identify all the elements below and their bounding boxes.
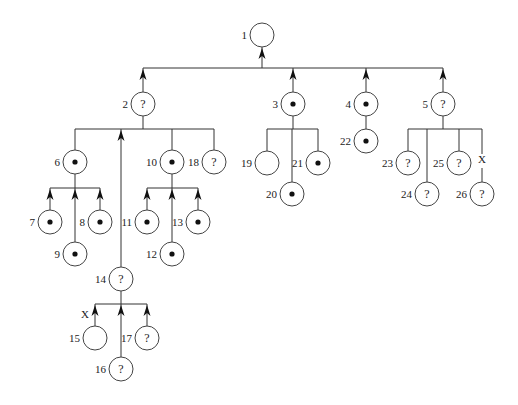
dot-icon [72, 159, 77, 164]
node-label: 8 [80, 216, 86, 228]
node-13: 13 [172, 210, 210, 234]
node-24: ?24 [401, 182, 439, 206]
dot-icon [363, 101, 368, 106]
dot-icon [195, 219, 200, 224]
question-mark-icon: ? [144, 331, 149, 345]
question-mark-icon: ? [118, 272, 123, 286]
node-circle [83, 326, 107, 350]
node-16: ?16 [95, 357, 133, 381]
node-label: 21 [292, 157, 303, 169]
dot-icon [315, 160, 320, 165]
node-label: 5 [423, 98, 429, 110]
node-circle [250, 23, 274, 47]
node-label: 7 [30, 216, 36, 228]
node-18: ?18 [188, 150, 226, 174]
node-21: 21 [292, 151, 330, 175]
node-11: 11 [121, 210, 159, 234]
dot-icon [169, 159, 174, 164]
node-7: 7 [30, 210, 63, 234]
node-label: 20 [266, 188, 278, 200]
arrows-layer [47, 48, 447, 316]
question-mark-icon: ? [456, 156, 461, 170]
node-label: 13 [172, 216, 184, 228]
node-label: 16 [95, 363, 107, 375]
node-label: 17 [121, 332, 133, 344]
node-label: 25 [433, 157, 445, 169]
edges-layer [50, 47, 482, 357]
node-4: 4 [346, 92, 379, 116]
question-mark-icon: ? [424, 187, 429, 201]
node-12: 12 [146, 242, 184, 266]
x-mark-label: X [81, 308, 89, 320]
node-label: 24 [401, 188, 413, 200]
node-9: 9 [55, 242, 88, 266]
node-20: 20 [266, 182, 304, 206]
node-5: ?5 [423, 92, 456, 116]
node-label: 19 [241, 157, 253, 169]
node-label: 2 [123, 98, 129, 110]
dot-icon [169, 251, 174, 256]
node-6: 6 [55, 150, 88, 174]
node-19: 19 [241, 151, 279, 175]
question-mark-icon: ? [440, 97, 445, 111]
node-8: 8 [80, 210, 113, 234]
x-mark-label: X [478, 153, 486, 165]
node-label: 26 [456, 188, 468, 200]
dot-icon [289, 191, 294, 196]
question-mark-icon: ? [211, 155, 216, 169]
node-circle [255, 151, 279, 175]
node-label: 23 [382, 157, 394, 169]
node-17: ?17 [121, 326, 159, 350]
dot-icon [72, 251, 77, 256]
node-label: 6 [55, 156, 61, 168]
node-label: 4 [346, 98, 352, 110]
node-label: 11 [121, 216, 132, 228]
node-23: ?23 [382, 151, 420, 175]
node-label: 22 [340, 135, 351, 147]
node-22: 22 [340, 129, 378, 153]
node-26: ?26 [456, 182, 494, 206]
node-15: 15 [69, 326, 107, 350]
node-10: 10 [146, 150, 184, 174]
node-label: 1 [242, 29, 248, 41]
node-label: 14 [95, 273, 107, 285]
node-label: 15 [69, 332, 81, 344]
node-1: 1 [242, 23, 275, 47]
node-2: ?2 [123, 92, 156, 116]
tree-diagram: 1?234?5678910111213?1415?16?17?181920212… [0, 0, 518, 405]
node-label: 9 [55, 248, 61, 260]
node-label: 10 [146, 156, 158, 168]
node-label: 18 [188, 156, 200, 168]
question-mark-icon: ? [118, 362, 123, 376]
node-25: ?25 [433, 151, 471, 175]
dot-icon [47, 219, 52, 224]
node-label: 3 [273, 98, 279, 110]
dot-icon [144, 219, 149, 224]
node-3: 3 [273, 92, 306, 116]
dot-icon [97, 219, 102, 224]
node-14: ?14 [95, 267, 133, 291]
dot-icon [363, 138, 368, 143]
nodes-layer: 1?234?5678910111213?1415?16?17?181920212… [30, 23, 495, 381]
question-mark-icon: ? [479, 187, 484, 201]
x-marks-layer: XX [81, 153, 486, 320]
question-mark-icon: ? [405, 156, 410, 170]
question-mark-icon: ? [140, 97, 145, 111]
node-label: 12 [146, 248, 157, 260]
dot-icon [290, 101, 295, 106]
